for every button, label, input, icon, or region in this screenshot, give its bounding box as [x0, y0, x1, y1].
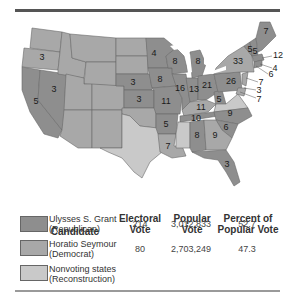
popular-seymour: 2,703,249 [160, 244, 222, 254]
ev-florida: 3 [224, 159, 229, 169]
state-florida [192, 150, 240, 186]
ev-kansas: 3 [136, 94, 141, 104]
ev-south-carolina: 6 [223, 122, 228, 132]
ev-tennessee: 10 [191, 113, 201, 123]
ev-indiana: 13 [189, 84, 199, 94]
electoral-seymour: 80 [124, 244, 156, 254]
ev-maryland: 7 [256, 94, 261, 104]
ev-arkansas: 5 [163, 119, 168, 129]
ev-california: 5 [33, 96, 38, 106]
ev-connecticut: 6 [268, 69, 273, 79]
state-colorado [92, 84, 124, 110]
state-montana [70, 34, 116, 62]
ev-west-virginia: 5 [216, 94, 221, 104]
ev-ohio: 21 [202, 80, 212, 90]
candidate-seymour: Horatio Seymour(Democrat) [49, 239, 117, 259]
state-wyoming [84, 62, 116, 86]
ev-oregon: 3 [39, 52, 44, 62]
ev-michigan: 8 [195, 56, 200, 66]
swatch-republican [20, 216, 48, 232]
ev-north-carolina: 9 [227, 108, 232, 118]
ev-illinois: 16 [175, 83, 185, 93]
percent-seymour: 47.3 [222, 244, 272, 254]
ev-pennsylvania: 26 [226, 76, 236, 86]
electoral-grant: 214 [124, 219, 156, 229]
ev-minnesota: 4 [151, 48, 156, 58]
ev-nebraska: 3 [130, 77, 135, 87]
ev-maine: 7 [263, 26, 268, 36]
ev-louisiana: 7 [165, 141, 170, 151]
ev-alabama: 8 [194, 130, 199, 140]
state-mississippi [176, 122, 190, 148]
lake-superior [170, 42, 204, 50]
ev-iowa: 8 [157, 74, 162, 84]
ev-new-hampshire: 5 [252, 46, 257, 56]
ev-massachusetts: 12 [273, 50, 283, 60]
ev-wisconsin: 8 [172, 56, 177, 66]
bottom-rule [15, 290, 280, 292]
popular-grant: 3,012,833 [160, 219, 222, 229]
state-new-mexico [92, 110, 122, 148]
swatch-democrat [20, 240, 48, 256]
ev-kentucky: 11 [196, 102, 205, 112]
state-washington [30, 28, 62, 52]
us-election-map-1868: 3 5 3 3 3 4 8 11 5 7 8 8 16 13 21 11 5 1… [0, 12, 290, 197]
state-north-dakota [116, 38, 148, 56]
percent-grant: 52.7 [222, 219, 272, 229]
state-south-dakota [116, 56, 148, 74]
state-new-jersey [242, 72, 248, 86]
swatch-nonvoting [20, 265, 48, 281]
ev-nevada: 3 [51, 84, 56, 94]
ev-new-york: 33 [233, 56, 243, 66]
ev-georgia: 9 [212, 130, 217, 140]
candidate-nonvoting: Nonvoting states(Reconstruction) [49, 264, 116, 284]
state-arizona [60, 110, 92, 148]
candidate-grant: Ulysses S. Grant(Republican) [49, 214, 117, 234]
ev-missouri: 11 [161, 96, 170, 106]
